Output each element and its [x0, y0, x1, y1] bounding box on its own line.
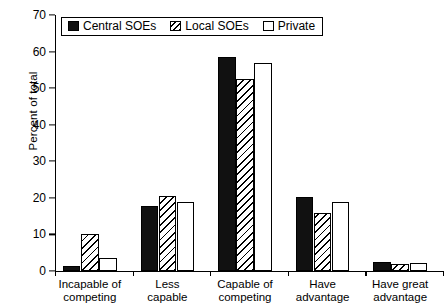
x-axis-tick	[133, 271, 134, 276]
bar-central-soes	[373, 262, 391, 272]
bar-central-soes	[218, 57, 236, 271]
bar-group	[133, 15, 211, 271]
x-axis-tick	[55, 271, 56, 276]
y-axis-tick-label: 40	[33, 119, 46, 131]
bar-central-soes	[141, 206, 159, 271]
bar-group	[288, 15, 366, 271]
x-axis-category-label: Capable of competing	[204, 278, 286, 303]
y-axis-tick-label: 0	[39, 265, 46, 277]
x-axis-category-label: Have great advantage	[359, 278, 441, 303]
y-axis-tick-label: 50	[33, 82, 46, 94]
bar-private	[99, 258, 117, 271]
legend-item-local-soes: Local SOEs	[170, 20, 248, 32]
x-axis-category-label: Have advantage	[282, 278, 364, 303]
bar-group	[365, 15, 443, 271]
plot-area: 010203040506070	[55, 15, 443, 271]
bar-group	[210, 15, 288, 271]
x-axis-category-label: Incapable of competing	[49, 278, 131, 303]
legend-label-private: Private	[278, 20, 315, 32]
legend-swatch-local-soes	[170, 21, 181, 31]
bar-private	[254, 63, 272, 271]
bar-private	[410, 263, 428, 271]
bar-private	[177, 202, 195, 271]
bar-local-soes	[236, 79, 254, 271]
legend-swatch-private	[263, 21, 274, 31]
x-axis-tick	[365, 271, 366, 276]
legend-item-private: Private	[263, 20, 315, 32]
x-axis-tick	[443, 271, 444, 276]
legend-swatch-central-soes	[68, 21, 79, 31]
y-axis-tick-label: 20	[33, 192, 46, 204]
bar-local-soes	[81, 234, 99, 271]
chart-legend: Central SOEs Local SOEs Private	[61, 17, 323, 36]
x-axis-tick	[210, 271, 211, 276]
x-axis-category-label: Less capable	[127, 278, 209, 303]
y-axis-tick-label: 30	[33, 155, 46, 167]
y-axis-tick-label: 70	[33, 9, 46, 21]
x-axis-tick	[288, 271, 289, 276]
bar-private	[332, 202, 350, 271]
legend-label-central-soes: Central SOEs	[83, 20, 156, 32]
bar-central-soes	[296, 197, 314, 271]
bar-group	[55, 15, 133, 271]
bar-chart-figure: Percent of total 010203040506070 Central…	[0, 0, 445, 307]
legend-item-central-soes: Central SOEs	[68, 20, 156, 32]
bar-central-soes	[63, 266, 81, 271]
y-axis-tick-label: 10	[33, 228, 46, 240]
bar-local-soes	[391, 264, 409, 271]
legend-label-local-soes: Local SOEs	[185, 20, 248, 32]
bar-local-soes	[159, 196, 177, 271]
y-axis-tick-label: 60	[33, 46, 46, 58]
bar-local-soes	[314, 213, 332, 271]
